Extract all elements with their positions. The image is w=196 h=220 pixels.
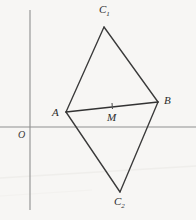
vertex-label-c1-subscript: 1 [106,10,110,18]
vertex-label-c2-subscript: 2 [121,202,125,210]
segment-a-c1 [66,27,104,112]
segment-c1-b [104,27,158,102]
geometry-figure: C1 C2 A B M O [0,0,196,220]
figure-canvas [0,0,196,220]
vertex-label-c2: C2 [114,196,125,210]
rhombus-outline [66,27,158,192]
scan-artifacts [0,166,196,196]
midpoint-label-m: M [107,112,116,123]
segment-c2-a [66,112,120,192]
midpoint-tick-mark [112,103,113,109]
vertex-label-c1: C1 [99,4,110,18]
origin-label-o: O [18,130,25,140]
vertex-label-b: B [164,95,171,106]
segment-b-c2 [120,102,158,192]
vertex-label-a: A [52,107,59,118]
